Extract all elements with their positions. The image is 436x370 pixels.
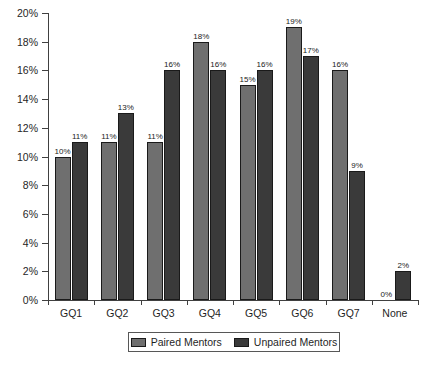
bar-gq7-paired[interactable] <box>332 70 348 300</box>
bar-gq4-paired[interactable] <box>193 42 209 300</box>
bar-value-gq7-paired: 16% <box>329 61 351 69</box>
bar-value-gq3-paired: 11% <box>144 133 166 141</box>
x-axis-tick <box>279 300 280 305</box>
legend-label-unpaired-mentors: Unpaired Mentors <box>254 337 337 348</box>
x-axis-tick <box>326 300 327 305</box>
bar-gq6-paired[interactable] <box>286 27 302 300</box>
x-axis-label-none: None <box>365 307 425 319</box>
y-axis-label: 4% <box>0 238 38 248</box>
bar-value-none-unpaired: 2% <box>392 262 414 270</box>
bar-gq3-unpaired[interactable] <box>164 70 180 300</box>
y-axis-label: 10% <box>0 152 38 162</box>
chart-legend: Paired Mentors Unpaired Mentors <box>128 332 340 352</box>
bar-value-gq5-paired: 15% <box>237 76 259 84</box>
y-axis-label: 18% <box>0 37 38 47</box>
x-axis-tick <box>372 300 373 305</box>
bar-gq3-paired[interactable] <box>147 142 163 300</box>
bar-gq4-unpaired[interactable] <box>210 70 226 300</box>
legend-swatch-unpaired-mentors <box>234 338 249 347</box>
bar-chart: 0%2%4%6%8%10%12%14%16%18%20% GQ1GQ2GQ3GQ… <box>0 0 436 370</box>
bar-value-gq2-paired: 11% <box>98 133 120 141</box>
x-axis-tick <box>418 300 419 305</box>
bar-gq7-unpaired[interactable] <box>349 171 365 300</box>
legend-item-unpaired-mentors[interactable]: Unpaired Mentors <box>234 337 337 348</box>
y-axis-label: 6% <box>0 209 38 219</box>
y-axis-label: 20% <box>0 8 38 18</box>
y-axis-label: 16% <box>0 65 38 75</box>
bar-value-gq4-unpaired: 16% <box>207 61 229 69</box>
bar-value-gq7-unpaired: 9% <box>346 162 368 170</box>
y-axis-label: 12% <box>0 123 38 133</box>
bar-value-gq6-paired: 19% <box>283 18 305 26</box>
x-axis-tick <box>48 300 49 305</box>
bar-gq2-unpaired[interactable] <box>118 113 134 300</box>
bar-gq5-paired[interactable] <box>240 85 256 300</box>
bar-value-gq5-unpaired: 16% <box>254 61 276 69</box>
legend-swatch-paired-mentors <box>131 338 146 347</box>
legend-item-paired-mentors[interactable]: Paired Mentors <box>131 337 222 348</box>
y-axis-label: 2% <box>0 266 38 276</box>
x-axis-tick <box>233 300 234 305</box>
bar-value-gq1-unpaired: 11% <box>69 133 91 141</box>
y-axis-label: 14% <box>0 94 38 104</box>
x-axis-tick <box>141 300 142 305</box>
bar-value-none-paired: 0% <box>375 291 397 299</box>
bar-gq1-unpaired[interactable] <box>72 142 88 300</box>
bar-gq2-paired[interactable] <box>101 142 117 300</box>
plot-area: 10%11%11%13%11%16%18%16%15%16%19%17%16%9… <box>48 13 418 300</box>
legend-label-paired-mentors: Paired Mentors <box>151 337 222 348</box>
bar-gq5-unpaired[interactable] <box>257 70 273 300</box>
bar-gq6-unpaired[interactable] <box>303 56 319 300</box>
bar-value-gq2-unpaired: 13% <box>115 104 137 112</box>
bar-value-gq6-unpaired: 17% <box>300 47 322 55</box>
bar-value-gq1-paired: 10% <box>52 148 74 156</box>
bar-gq1-paired[interactable] <box>55 157 71 301</box>
bar-value-gq3-unpaired: 16% <box>161 61 183 69</box>
x-axis-tick <box>94 300 95 305</box>
y-axis-label: 0% <box>0 295 38 305</box>
bar-none-unpaired[interactable] <box>395 271 411 300</box>
x-axis-tick <box>187 300 188 305</box>
bar-value-gq4-paired: 18% <box>190 33 212 41</box>
y-axis-label: 8% <box>0 180 38 190</box>
